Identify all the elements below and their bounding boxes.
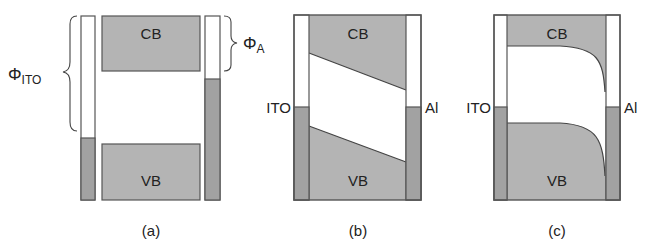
cb-label: CB	[547, 25, 568, 42]
cb-label: CB	[348, 25, 369, 42]
ito-label: ITO	[466, 99, 491, 116]
vb-label: VB	[348, 172, 368, 189]
vb-label: VB	[547, 172, 567, 189]
al-electrode	[406, 15, 421, 200]
panel-b: CB VB ITO Al (b)	[266, 15, 438, 239]
phi-ito-label: ΦITO	[8, 65, 41, 87]
valence-band: VB	[102, 144, 200, 200]
phi-a-brace	[224, 16, 237, 71]
panel-a: CB VB ΦITO ΦA (a)	[8, 16, 265, 239]
al-electrode	[606, 15, 620, 200]
cb-label: CB	[141, 25, 162, 42]
caption-c: (c)	[548, 222, 566, 239]
al-label: Al	[624, 99, 637, 116]
ito-label: ITO	[266, 99, 291, 116]
vb-label: VB	[141, 172, 161, 189]
band-diagram-figure: CB VB ΦITO ΦA (a)	[0, 0, 662, 252]
al-label: Al	[425, 99, 438, 116]
phi-a-label: ΦA	[243, 34, 265, 56]
ito-electrode	[81, 16, 95, 200]
ito-electrode	[494, 15, 507, 200]
conduction-band: CB	[102, 16, 200, 71]
al-electrode	[205, 16, 220, 200]
caption-b: (b)	[349, 222, 367, 239]
caption-a: (a)	[142, 222, 160, 239]
phi-ito-brace	[63, 16, 77, 131]
ito-electrode	[294, 15, 309, 200]
panel-c: CB VB ITO Al (c)	[466, 15, 637, 239]
